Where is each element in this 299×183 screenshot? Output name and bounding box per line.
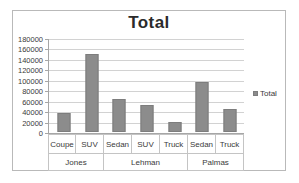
- legend-label-total: Total: [260, 89, 277, 98]
- y-axis-label: 100000: [18, 76, 43, 85]
- bar[interactable]: [85, 54, 98, 132]
- y-axis-tick: [45, 102, 49, 103]
- y-axis-tick: [45, 70, 49, 71]
- y-axis-tick: [45, 81, 49, 82]
- category-label: Truck: [216, 135, 244, 153]
- category-label: Coupe: [48, 135, 76, 153]
- category-label: SUV: [132, 135, 160, 153]
- bar[interactable]: [196, 82, 209, 132]
- chart-container: Total 1800001600001400001200001000008000…: [12, 10, 286, 171]
- y-axis-tick: [45, 39, 49, 40]
- bar-slot: [216, 39, 244, 132]
- bar-slot: [105, 39, 133, 132]
- bar[interactable]: [140, 105, 153, 132]
- y-axis-label: 180000: [18, 35, 43, 44]
- bar[interactable]: [224, 109, 237, 132]
- y-axis-label: 120000: [18, 66, 43, 75]
- y-axis-tick: [45, 112, 49, 113]
- bar-slot: [50, 39, 78, 132]
- category-axis-row: CoupeSUVSedanSUVTruckSedanTruck: [48, 134, 244, 154]
- category-label: SUV: [76, 135, 104, 153]
- category-label: Sedan: [188, 135, 216, 153]
- chart-title: Total: [13, 13, 285, 33]
- group-axis-row: JonesLehmanPalmas: [48, 154, 244, 171]
- y-axis-label: 20000: [22, 118, 43, 127]
- y-axis-label: 0: [39, 129, 43, 138]
- bar[interactable]: [113, 99, 126, 132]
- y-axis-label: 140000: [18, 55, 43, 64]
- group-label: Jones: [48, 154, 104, 170]
- bar-slot: [161, 39, 189, 132]
- bar[interactable]: [168, 122, 181, 132]
- bar-slot: [189, 39, 217, 132]
- chart-legend: Total: [253, 89, 277, 98]
- y-axis-tick: [45, 49, 49, 50]
- plot-area: 1800001600001400001200001000008000060000…: [48, 39, 244, 134]
- bars-group: [50, 39, 244, 132]
- y-axis-label: 60000: [22, 97, 43, 106]
- bar[interactable]: [57, 113, 70, 132]
- y-axis-label: 40000: [22, 108, 43, 117]
- y-axis-tick: [45, 60, 49, 61]
- group-label: Palmas: [188, 154, 244, 170]
- group-label: Lehman: [104, 154, 188, 170]
- y-axis-label: 160000: [18, 45, 43, 54]
- y-axis-label: 80000: [22, 87, 43, 96]
- category-label: Sedan: [104, 135, 132, 153]
- bar-slot: [133, 39, 161, 132]
- bar-slot: [78, 39, 106, 132]
- legend-swatch-icon: [253, 91, 258, 96]
- plot-area-wrapper: 1800001600001400001200001000008000060000…: [48, 39, 244, 134]
- category-label: Truck: [160, 135, 188, 153]
- y-axis-tick: [45, 123, 49, 124]
- y-axis-tick: [45, 91, 49, 92]
